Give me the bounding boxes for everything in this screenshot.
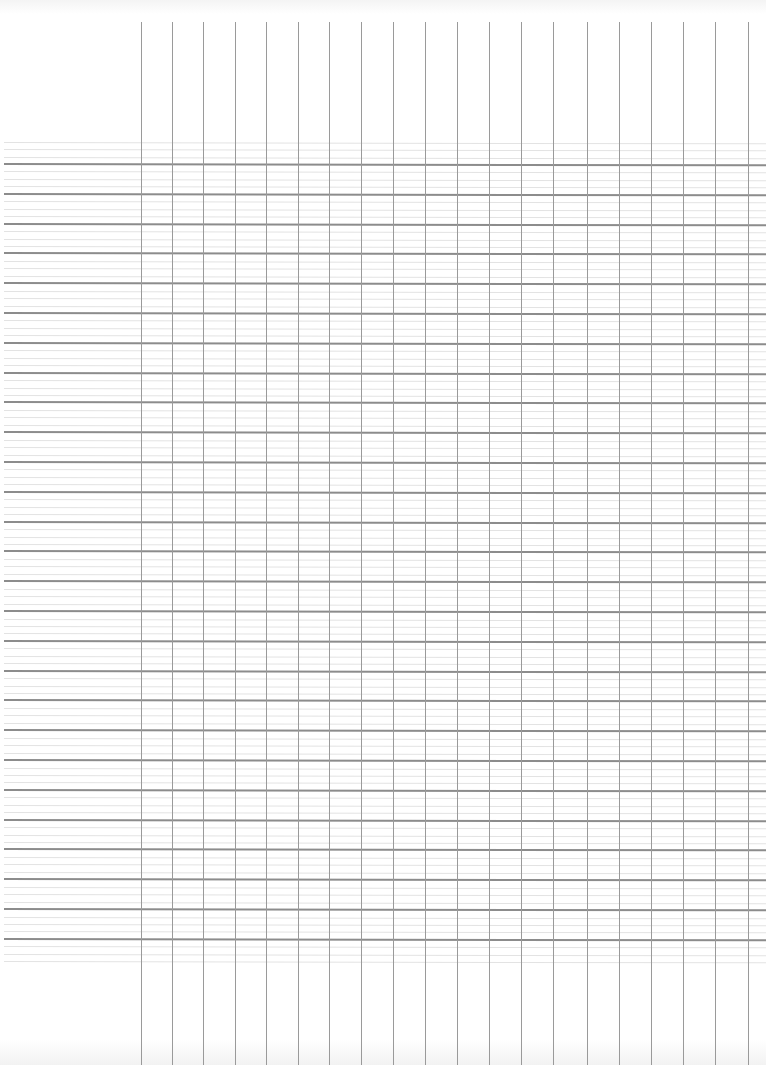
column-rule-line: [715, 22, 716, 1065]
column-rule-line: [203, 22, 204, 1065]
column-rule-line: [393, 22, 394, 1065]
column-rule-line: [651, 22, 652, 1065]
column-rule-line: [141, 22, 142, 1065]
column-rule-line: [329, 22, 330, 1065]
column-rule-line: [425, 22, 426, 1065]
column-rule-line: [266, 22, 267, 1065]
column-rule-line: [521, 22, 522, 1065]
column-rule-line: [748, 22, 749, 1065]
column-rule-line: [587, 22, 588, 1065]
column-rule-line: [361, 22, 362, 1065]
ledger-sheet: [0, 0, 766, 1065]
column-rule-line: [489, 22, 490, 1065]
column-rule-line: [172, 22, 173, 1065]
column-rule-line: [619, 22, 620, 1065]
column-rule-line: [235, 22, 236, 1065]
column-rule-line: [457, 22, 458, 1065]
column-rule-line: [683, 22, 684, 1065]
column-rule-line: [298, 22, 299, 1065]
column-rule-line: [553, 22, 554, 1065]
